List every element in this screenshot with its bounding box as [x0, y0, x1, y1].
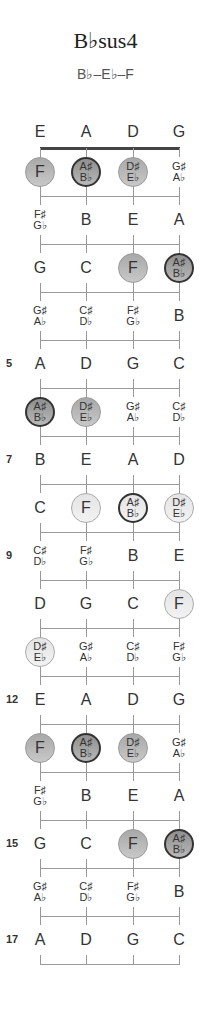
note-label: C	[164, 925, 194, 955]
fret-line	[40, 292, 180, 293]
note-label: F♯G♭	[71, 541, 101, 571]
chord-note-marker: D♯E♭	[164, 493, 194, 523]
note-label: E	[118, 781, 148, 811]
note-label: G♯A♭	[164, 157, 194, 187]
note-label: C♯D♭	[71, 301, 101, 331]
note-label: F♯G♭	[118, 301, 148, 331]
fret-line	[40, 772, 180, 773]
note-label: G♯A♭	[71, 637, 101, 667]
chord-note-marker: F	[71, 493, 101, 523]
note-label: D	[118, 117, 148, 147]
note-label: G	[164, 117, 194, 147]
root-note-marker: A♯B♭	[164, 253, 194, 283]
note-label: G	[118, 925, 148, 955]
note-label: G	[71, 589, 101, 619]
note-label: G♯A♭	[118, 397, 148, 427]
chord-note-marker: D♯E♭	[118, 157, 148, 187]
note-label: D	[71, 925, 101, 955]
chord-note-marker: D♯E♭	[25, 637, 55, 667]
note-label: B	[164, 301, 194, 331]
fret-line	[40, 820, 180, 821]
note-label: B	[71, 781, 101, 811]
chord-note-marker: F	[25, 157, 55, 187]
note-label: E	[25, 117, 55, 147]
chord-note-marker: F	[118, 253, 148, 283]
fret-line	[40, 532, 180, 533]
note-label: G♯A♭	[25, 301, 55, 331]
fret-line	[40, 916, 180, 917]
note-label: A	[71, 117, 101, 147]
note-label: B	[71, 205, 101, 235]
chord-note-marker: F	[25, 733, 55, 763]
chord-note-marker: F	[164, 589, 194, 619]
note-label: G	[25, 829, 55, 859]
chord-note-marker: D♯E♭	[71, 397, 101, 427]
fret-line	[40, 436, 180, 437]
root-note-marker: A♯B♭	[118, 493, 148, 523]
note-label: C♯D♭	[118, 637, 148, 667]
note-label: E	[25, 685, 55, 715]
root-note-marker: A♯B♭	[71, 157, 101, 187]
note-label: C	[71, 253, 101, 283]
fretboard: EADGFA♯B♭D♯E♭G♯A♭F♯G♭BEAGCFA♯B♭G♯A♭C♯D♭F…	[0, 0, 211, 1012]
note-label: E	[71, 445, 101, 475]
note-label: G	[25, 253, 55, 283]
root-note-marker: A♯B♭	[71, 733, 101, 763]
note-label: B	[118, 541, 148, 571]
note-label: A	[25, 349, 55, 379]
fret-line	[40, 388, 180, 389]
fret-line	[40, 340, 180, 341]
note-label: A	[25, 925, 55, 955]
fret-line	[40, 964, 180, 965]
fret-number: 9	[6, 549, 22, 561]
fret-number: 15	[6, 837, 22, 849]
note-label: G♯A♭	[164, 733, 194, 763]
fret-line	[40, 196, 180, 197]
note-label: D	[25, 589, 55, 619]
note-label: C	[25, 493, 55, 523]
note-label: C♯D♭	[25, 541, 55, 571]
note-label: E	[164, 541, 194, 571]
note-label: G	[118, 349, 148, 379]
fret-number: 5	[6, 357, 22, 369]
note-label: F♯G♭	[118, 877, 148, 907]
note-label: A	[164, 781, 194, 811]
root-note-marker: A♯B♭	[164, 829, 194, 859]
note-label: A	[118, 445, 148, 475]
note-label: D	[118, 685, 148, 715]
fret-line	[40, 484, 180, 485]
note-label: A	[164, 205, 194, 235]
note-label: F♯G♭	[25, 781, 55, 811]
nut	[40, 147, 180, 150]
note-label: G♯A♭	[25, 877, 55, 907]
fret-line	[40, 580, 180, 581]
note-label: B	[164, 877, 194, 907]
fret-line	[40, 868, 180, 869]
note-label: C♯D♭	[71, 877, 101, 907]
note-label: E	[118, 205, 148, 235]
fret-line	[40, 676, 180, 677]
chord-note-marker: F	[118, 829, 148, 859]
note-label: C♯D♭	[164, 397, 194, 427]
fret-number: 7	[6, 453, 22, 465]
note-label: C	[118, 589, 148, 619]
note-label: F♯G♭	[25, 205, 55, 235]
fret-number: 17	[6, 933, 22, 945]
fret-line	[40, 628, 180, 629]
note-label: C	[164, 349, 194, 379]
note-label: C	[71, 829, 101, 859]
note-label: D	[164, 445, 194, 475]
note-label: D	[71, 349, 101, 379]
root-note-marker: A♯B♭	[25, 397, 55, 427]
note-label: B	[25, 445, 55, 475]
fret-number: 12	[6, 693, 22, 705]
note-label: F♯G♭	[164, 637, 194, 667]
fret-line	[40, 244, 180, 245]
chord-note-marker: D♯E♭	[118, 733, 148, 763]
note-label: G	[164, 685, 194, 715]
note-label: A	[71, 685, 101, 715]
fret-line	[40, 724, 180, 725]
